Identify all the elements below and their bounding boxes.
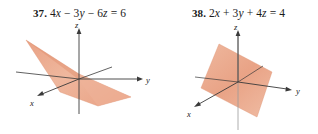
axis-label-x-38: x	[186, 109, 191, 119]
axis-label-z-38: z	[233, 22, 238, 32]
axis-x-negative-37	[79, 67, 112, 79]
plane-surface-37	[26, 40, 131, 106]
plane-surface-38	[201, 44, 272, 117]
problem-37-equation: 4x − 3y − 6z = 6	[50, 7, 126, 19]
problem-37-figure: y x z	[0, 22, 159, 134]
axis-label-y-37: y	[145, 75, 150, 85]
problem-38: 38.2x + 3y + 4z = 4	[159, 0, 318, 134]
axis-label-y-38: y	[295, 86, 300, 96]
problem-38-header: 38.2x + 3y + 4z = 4	[159, 7, 318, 20]
axis-label-z-37: z	[74, 22, 79, 30]
problem-37: 37.4x − 3y − 6z = 6	[0, 0, 159, 134]
textbook-exercise-page: 37.4x − 3y − 6z = 6	[0, 0, 318, 134]
problem-38-number: 38.	[192, 7, 206, 19]
problem-37-header: 37.4x − 3y − 6z = 6	[0, 7, 159, 20]
problem-38-equation: 2x + 3y + 4z = 4	[209, 7, 285, 19]
problem-37-number: 37.	[33, 7, 47, 19]
axis-z-37	[77, 28, 82, 114]
axis-label-x-37: x	[29, 98, 34, 108]
problem-38-figure: y x z	[159, 22, 318, 134]
